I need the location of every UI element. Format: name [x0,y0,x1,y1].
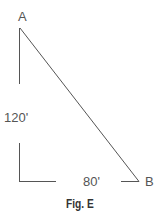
point-a-label: A [18,10,27,23]
horizontal-dimension-label: 80' [83,175,100,188]
triangle-drawing [0,0,164,218]
vertical-dimension-label: 120' [4,111,28,124]
point-b-label: B [145,175,154,188]
hypotenuse [20,28,139,182]
figure-caption: Fig. E [66,198,94,210]
